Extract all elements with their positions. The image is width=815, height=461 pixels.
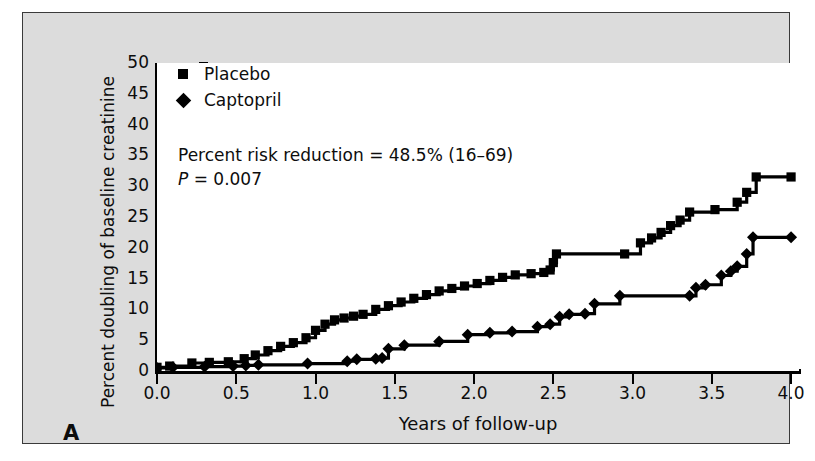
x-tick-label: 2.0 bbox=[444, 385, 504, 402]
x-axis-ticklabels: 0.00.51.01.52.02.53.03.54.0 bbox=[23, 13, 815, 461]
statistics-annotation: Percent risk reduction = 48.5% (16–69) P… bbox=[178, 143, 513, 191]
x-tick-mark bbox=[394, 374, 396, 384]
x-tick-label: 1.5 bbox=[365, 385, 425, 402]
x-tick-mark bbox=[156, 374, 158, 384]
x-tick-mark bbox=[552, 374, 554, 384]
legend-item-captopril: Captopril bbox=[178, 87, 281, 113]
p-symbol: P bbox=[178, 169, 188, 189]
figure-panel-a: Percent doubling of baseline creatinine … bbox=[0, 0, 815, 461]
x-tick-mark bbox=[235, 374, 237, 384]
panel-letter-label: A bbox=[63, 421, 79, 445]
chart-frame: Percent doubling of baseline creatinine … bbox=[22, 12, 790, 444]
x-tick-label: 0.5 bbox=[206, 385, 266, 402]
x-tick-mark bbox=[711, 374, 713, 384]
square-marker-icon bbox=[178, 69, 198, 79]
x-tick-label: 4.0 bbox=[761, 385, 815, 402]
x-tick-mark bbox=[315, 374, 317, 384]
p-value: = 0.007 bbox=[188, 169, 262, 189]
p-value-text: P = 0.007 bbox=[178, 167, 513, 191]
x-tick-label: 0.0 bbox=[127, 385, 187, 402]
x-axis-title: Years of follow-up bbox=[157, 413, 799, 434]
x-tick-mark bbox=[632, 374, 634, 384]
x-tick-mark bbox=[790, 374, 792, 384]
x-tick-label: 1.0 bbox=[286, 385, 346, 402]
legend-item-placebo: Placebo bbox=[178, 61, 281, 87]
x-tick-label: 3.5 bbox=[682, 385, 742, 402]
legend-label-captopril: Captopril bbox=[204, 90, 281, 110]
x-tick-mark bbox=[473, 374, 475, 384]
legend-label-placebo: Placebo bbox=[204, 64, 270, 84]
risk-reduction-text: Percent risk reduction = 48.5% (16–69) bbox=[178, 143, 513, 167]
x-tick-label: 2.5 bbox=[523, 385, 583, 402]
chart-legend: Placebo Captopril bbox=[178, 61, 281, 113]
diamond-marker-icon bbox=[178, 95, 198, 106]
x-tick-label: 3.0 bbox=[603, 385, 663, 402]
